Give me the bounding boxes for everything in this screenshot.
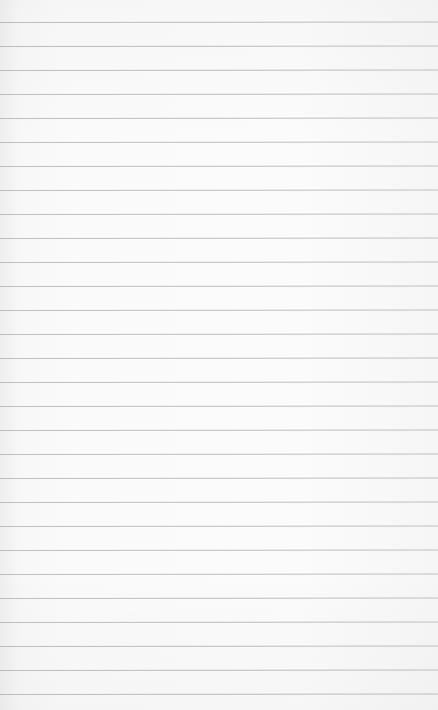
ruled-line <box>0 213 438 215</box>
ruled-line <box>0 477 438 479</box>
ruled-line <box>0 429 438 431</box>
ruled-line <box>0 693 438 695</box>
ruled-line <box>0 525 438 527</box>
ruled-line <box>0 117 438 119</box>
ruled-line <box>0 261 438 263</box>
ruled-line <box>0 501 438 503</box>
ruled-line <box>0 645 438 647</box>
ruled-line <box>0 549 438 551</box>
ruled-line <box>0 69 438 71</box>
ruled-line <box>0 237 438 239</box>
lined-paper <box>0 0 438 710</box>
ruled-line <box>0 357 438 359</box>
ruled-line <box>0 285 438 287</box>
ruled-line <box>0 381 438 383</box>
ruled-line <box>0 141 438 143</box>
ruled-line <box>0 333 438 335</box>
ruled-line <box>0 669 438 671</box>
ruled-line <box>0 573 438 575</box>
ruled-line <box>0 93 438 95</box>
ruled-line <box>0 189 438 191</box>
ruled-line <box>0 621 438 623</box>
ruled-line <box>0 405 438 407</box>
ruled-line <box>0 309 438 311</box>
ruled-line <box>0 165 438 167</box>
ruled-line <box>0 597 438 599</box>
ruled-line <box>0 453 438 455</box>
ruled-line <box>0 21 438 23</box>
ruled-line <box>0 45 438 47</box>
